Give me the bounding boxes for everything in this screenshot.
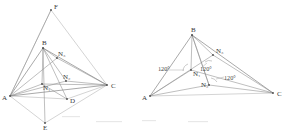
angle-120-middle: 120° — [200, 65, 212, 72]
dot-n3-right — [212, 54, 214, 56]
label-d-left: D — [70, 97, 75, 105]
dot-b-right — [191, 34, 193, 36]
noise-mark-4 — [188, 121, 208, 122]
label-n2-left: N₂ — [63, 73, 71, 81]
angle-120-right: 120° — [224, 74, 236, 81]
label-n3-right: N₃ — [216, 47, 224, 55]
label-n3-left: N₃ — [58, 50, 66, 58]
label-a-left: A — [2, 94, 7, 102]
noise-mark-1 — [62, 116, 80, 117]
angle-120-left: 120° — [158, 65, 170, 72]
dot-b — [42, 47, 44, 49]
dot-c — [106, 84, 108, 86]
label-f-left: F — [54, 3, 58, 11]
label-e-left: E — [43, 124, 47, 132]
label-c-right: C — [277, 90, 282, 98]
noise-mark-2 — [96, 121, 122, 122]
dot-f — [50, 9, 52, 11]
label-n2-right: N₂ — [201, 81, 209, 89]
dot-a-right — [149, 95, 151, 97]
noise-mark-3 — [142, 120, 156, 121]
dot-d — [66, 98, 68, 100]
dot-n1-right — [190, 69, 192, 71]
label-c-left: C — [111, 82, 116, 90]
label-b-right: B — [191, 26, 196, 34]
dot-c-right — [272, 92, 274, 94]
label-n1-left: N₁ — [43, 84, 51, 92]
label-b-left: B — [42, 39, 47, 47]
dot-a — [9, 95, 11, 97]
geometry-figure-canvas: A B C D E F N₁ N₂ N₃ — [0, 0, 285, 132]
label-a-right: A — [142, 94, 147, 102]
